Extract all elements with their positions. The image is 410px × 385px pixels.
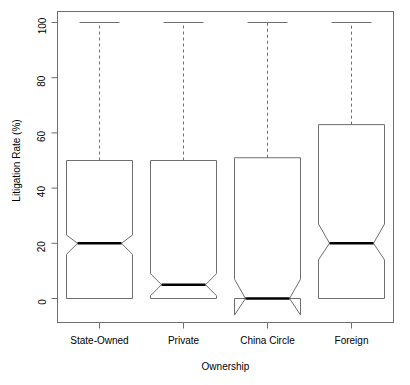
y-tick-label-40: 40	[37, 186, 48, 198]
box-0	[67, 161, 133, 299]
x-tick-label-3: Foreign	[335, 335, 369, 346]
x-tick-label-2: China Circle	[240, 335, 295, 346]
y-tick-label-100: 100	[37, 17, 48, 34]
boxplot-canvas: 020406080100Litigation Rate (%)State-Own…	[0, 0, 410, 385]
y-tick-label-60: 60	[37, 130, 48, 142]
y-tick-label-0: 0	[37, 299, 48, 305]
boxplot-figure: 020406080100Litigation Rate (%)State-Own…	[0, 0, 410, 385]
x-axis-title: Ownership	[202, 361, 250, 372]
x-tick-label-1: Private	[168, 335, 200, 346]
x-tick-label-0: State-Owned	[70, 335, 128, 346]
plot-frame	[58, 12, 394, 323]
y-axis-title: Litigation Rate (%)	[11, 119, 22, 201]
y-tick-label-20: 20	[37, 241, 48, 253]
box-1	[151, 161, 217, 299]
box-3	[319, 125, 385, 299]
box-2	[235, 158, 301, 315]
y-tick-label-80: 80	[37, 75, 48, 87]
